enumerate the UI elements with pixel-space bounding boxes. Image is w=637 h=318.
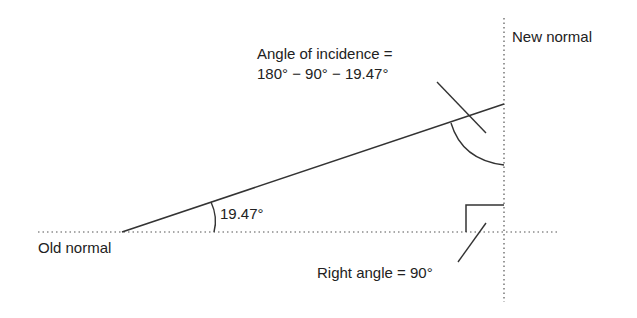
incident-ray — [122, 104, 504, 232]
right-angle-leader — [458, 223, 486, 262]
incidence-label-line1: Angle of incidence = — [257, 44, 393, 63]
incidence-leader — [437, 82, 486, 133]
small-angle-label: 19.47° — [220, 204, 264, 223]
right-angle-marker — [466, 205, 504, 232]
old-normal-label: Old normal — [38, 238, 111, 257]
incidence-angle-arc — [451, 123, 504, 165]
right-angle-label: Right angle = 90° — [317, 263, 433, 282]
incidence-label-line2: 180° − 90° − 19.47° — [257, 64, 388, 83]
small-angle-arc — [211, 202, 215, 232]
new-normal-label: New normal — [512, 27, 592, 46]
